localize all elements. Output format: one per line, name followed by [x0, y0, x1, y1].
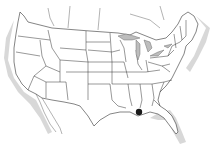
- canada-lines: [48, 6, 164, 30]
- highlight-marker: [136, 109, 142, 115]
- us-map: [0, 0, 214, 148]
